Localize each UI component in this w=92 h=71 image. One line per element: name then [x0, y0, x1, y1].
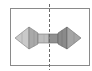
- connector-bar: [38, 34, 58, 43]
- diagram-canvas: [0, 0, 92, 71]
